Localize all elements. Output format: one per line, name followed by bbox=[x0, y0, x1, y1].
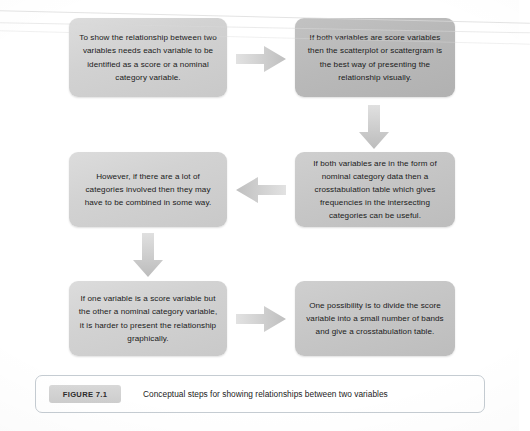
flow-box-3-text: However, if there are a lot of categorie… bbox=[77, 170, 219, 209]
figure-number-badge: FIGURE 7.1 bbox=[49, 385, 121, 403]
flow-box-6: One possibility is to divide the score v… bbox=[295, 281, 455, 356]
flow-box-6-text: One possibility is to divide the score v… bbox=[303, 299, 447, 338]
flow-box-1-text: To show the relationship between two var… bbox=[77, 31, 219, 83]
flow-box-1: To show the relationship between two var… bbox=[69, 18, 227, 97]
arrow-down-icon bbox=[131, 232, 165, 278]
flow-box-4-text: If both variables are in the form of nom… bbox=[303, 157, 447, 223]
arrow-left-icon bbox=[234, 175, 288, 205]
flow-box-2-text: If both variables are score variables th… bbox=[303, 31, 447, 83]
flow-box-3: However, if there are a lot of categorie… bbox=[69, 152, 227, 227]
arrow-right-icon bbox=[234, 304, 288, 334]
flow-box-2: If both variables are score variables th… bbox=[295, 18, 455, 97]
arrow-down-icon bbox=[357, 104, 391, 150]
flow-box-5-text: If one variable is a score variable but … bbox=[77, 292, 219, 344]
flow-box-4: If both variables are in the form of nom… bbox=[295, 152, 455, 227]
arrow-right-icon bbox=[234, 44, 288, 74]
figure-caption-bar: FIGURE 7.1 Conceptual steps for showing … bbox=[35, 375, 485, 413]
flow-box-5: If one variable is a score variable but … bbox=[69, 281, 227, 356]
figure-caption-text: Conceptual steps for showing relationshi… bbox=[143, 389, 388, 399]
